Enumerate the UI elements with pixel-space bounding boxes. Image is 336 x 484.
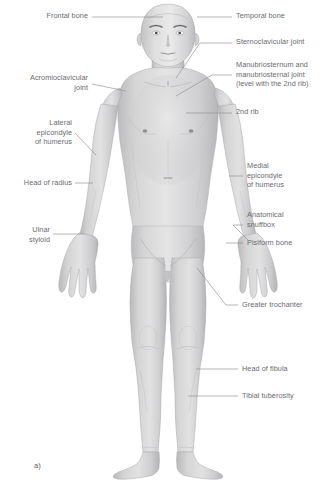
label-pisiform-bone: Pisiform bone bbox=[247, 238, 335, 248]
label-ulnar-styloid: Ulnar styloid bbox=[4, 225, 50, 244]
label-temporal-bone: Temporal bone bbox=[236, 11, 336, 21]
label-lateral-epicondyle-of-humerus: Lateral epicondyle of humerus bbox=[4, 118, 72, 147]
label-sternoclavicular-joint: Sternoclavicular joint bbox=[236, 37, 336, 47]
label-medial-epicondyle-of-humerus: Medial epicondyle of humerus bbox=[247, 161, 335, 190]
label-acromioclavicular-joint: Acromioclavicular joint bbox=[4, 73, 88, 92]
label-anatomical-snuffbox: Anatomical snuffbox bbox=[247, 210, 335, 229]
figure-caption: a) bbox=[34, 461, 41, 470]
label-second-rib: 2nd rib bbox=[236, 107, 336, 117]
label-manubriosternum: Manubriosternum and manubriosternal join… bbox=[236, 60, 336, 89]
label-frontal-bone: Frontal bone bbox=[4, 11, 88, 21]
anatomy-figure: Frontal bone Acromioclavicular joint Lat… bbox=[0, 0, 336, 484]
label-head-of-fibula: Head of fibula bbox=[242, 364, 336, 374]
label-greater-trochanter: Greater trochanter bbox=[242, 300, 336, 310]
label-tibial-tuberosity: Tibial tuberosity bbox=[242, 391, 336, 401]
label-head-of-radius: Head of radius bbox=[0, 178, 72, 188]
